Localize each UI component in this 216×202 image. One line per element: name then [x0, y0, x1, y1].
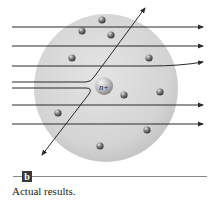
electron-icon — [145, 54, 152, 61]
panel-label: b — [22, 171, 32, 182]
figure-caption: Actual results. — [12, 185, 76, 197]
electron-icon — [54, 109, 61, 116]
electron-icon — [156, 88, 163, 95]
nucleus: n+ — [95, 77, 113, 95]
panel-label-row: b — [13, 171, 207, 183]
electron-icon — [68, 54, 75, 61]
electron-icon — [78, 27, 85, 34]
electron-icon — [98, 16, 105, 23]
nucleus-label: n+ — [99, 83, 108, 92]
divider-line — [13, 176, 207, 177]
electron-icon — [107, 31, 114, 38]
electron-icon — [120, 91, 127, 98]
rutherford-scattering-diagram: n+ — [0, 0, 216, 170]
electron-icon — [96, 142, 103, 149]
electron-icon — [143, 126, 150, 133]
